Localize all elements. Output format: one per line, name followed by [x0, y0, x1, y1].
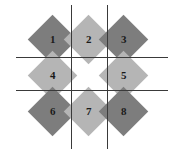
diamond-label-3: 3 [121, 34, 127, 45]
diamond-label-7: 7 [86, 106, 92, 117]
diamond-label-4: 4 [50, 70, 56, 81]
diamond-marker-8[interactable]: 8 [99, 87, 148, 136]
diamond-label-5: 5 [121, 70, 127, 81]
diamond-label-8: 8 [121, 106, 127, 117]
diamond-label-1: 1 [50, 34, 56, 45]
diamond-label-2: 2 [86, 34, 92, 45]
diamond-lattice-figure: 1 2 3 4 5 6 7 8 [0, 0, 176, 156]
diamond-marker-layer: 1 2 3 4 5 6 7 8 [0, 0, 176, 156]
diamond-label-6: 6 [50, 106, 56, 117]
